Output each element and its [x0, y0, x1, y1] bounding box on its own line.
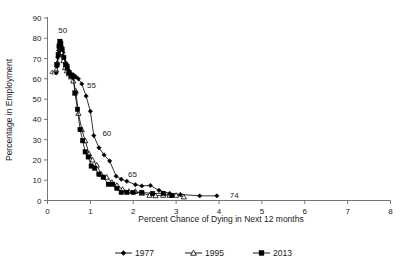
y-axis-tick-label: 80: [33, 34, 42, 43]
marker-square: [80, 138, 84, 142]
marker-square: [86, 155, 90, 159]
marker-diamond: [88, 109, 92, 113]
marker-diamond: [114, 174, 118, 178]
marker-square: [150, 191, 154, 195]
y-axis: 0102030405060708090: [33, 14, 48, 206]
marker-square: [59, 41, 63, 45]
marker-square: [56, 52, 60, 56]
marker-square: [92, 166, 96, 170]
marker-diamond: [84, 94, 88, 98]
marker-square: [55, 62, 59, 66]
marker-diamond: [215, 194, 219, 198]
y-axis-tick-label: 90: [33, 14, 42, 23]
marker-square: [259, 251, 264, 256]
marker-square: [73, 91, 77, 95]
marker-diamond: [133, 182, 137, 186]
y-axis-tick-label: 10: [33, 176, 42, 185]
marker-square: [78, 127, 82, 131]
marker-square: [125, 190, 129, 194]
y-axis-tick-label: 60: [33, 75, 42, 84]
marker-square: [65, 65, 69, 69]
annotation-43: 43: [49, 68, 58, 77]
annotation-74: 74: [230, 191, 239, 200]
series-1995: [53, 45, 186, 199]
legend-item-1995[interactable]: 1995: [185, 248, 224, 258]
marker-square: [115, 186, 119, 190]
marker-diamond: [121, 251, 126, 256]
marker-square: [140, 190, 144, 194]
x-axis-tick-label: 8: [388, 207, 393, 216]
marker-square: [75, 107, 79, 111]
y-axis-tick-label: 50: [33, 95, 42, 104]
annotation-60: 60: [102, 129, 111, 138]
line-chart: 0102030405060708090 012345678 5043556065…: [0, 0, 403, 273]
marker-square: [131, 190, 135, 194]
series-2013: [55, 39, 174, 198]
marker-diamond: [157, 188, 161, 192]
x-axis-title: Percent Chance of Dying in Next 12 month…: [138, 214, 303, 224]
y-axis-tick-label: 20: [33, 156, 42, 165]
annotation-65: 65: [128, 170, 137, 179]
marker-square: [83, 150, 87, 154]
y-axis-tick-label: 0: [37, 197, 42, 206]
x-axis-tick-label: 0: [45, 207, 50, 216]
marker-square: [170, 193, 174, 197]
y-axis-tick-label: 40: [33, 115, 42, 124]
legend-item-2013[interactable]: 2013: [253, 248, 292, 258]
marker-diamond: [119, 177, 123, 181]
legend-item-1977[interactable]: 1977: [115, 248, 154, 258]
marker-square: [161, 191, 165, 195]
annotation-50: 50: [58, 26, 67, 35]
marker-triangle: [90, 157, 95, 162]
x-axis-tick-label: 7: [345, 207, 350, 216]
legend-label-1995: 1995: [205, 248, 224, 258]
chart-legend: 197719952013: [115, 248, 292, 258]
marker-diamond: [140, 184, 144, 188]
series-line-1995: [56, 47, 184, 196]
chart-container: 0102030405060708090 012345678 5043556065…: [0, 0, 403, 273]
y-axis-tick-label: 70: [33, 55, 42, 64]
x-axis-tick-label: 1: [88, 207, 93, 216]
marker-square: [97, 172, 101, 176]
marker-square: [110, 182, 114, 186]
y-axis-tick-label: 30: [33, 136, 42, 145]
marker-square: [119, 190, 123, 194]
marker-square: [106, 182, 110, 186]
legend-label-2013: 2013: [273, 248, 292, 258]
marker-square: [62, 55, 66, 59]
marker-diamond: [80, 82, 84, 86]
marker-diamond: [125, 179, 129, 183]
legend-label-1977: 1977: [135, 248, 154, 258]
marker-diamond: [92, 133, 96, 137]
marker-diamond: [198, 194, 202, 198]
marker-square: [71, 75, 75, 79]
marker-square: [101, 175, 105, 179]
x-axis-tick-label: 2: [131, 207, 136, 216]
marker-diamond: [148, 183, 152, 187]
marker-square: [60, 47, 64, 51]
y-axis-title: Percentage in Employment: [4, 58, 14, 161]
annotation-55: 55: [87, 81, 96, 90]
